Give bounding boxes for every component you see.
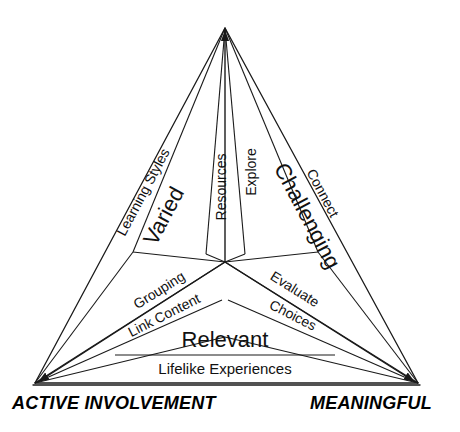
label-explore: Explore [244,117,258,227]
vertex-label-meaningful: MEANINGFUL [310,394,455,412]
vertex-label-active-involvement: ACTIVE INVOLVEMENT [12,394,242,412]
label-resources: Resources [214,132,228,242]
label-relevant: Relevant [170,329,280,351]
engaged-learning-triangle-diagram: Learning Styles Varied Resources Explore… [0,0,460,432]
label-lifelike-experiences: Lifelike Experiences [145,361,305,376]
divider-explore [225,28,245,254]
